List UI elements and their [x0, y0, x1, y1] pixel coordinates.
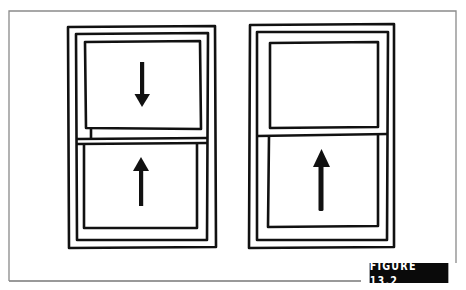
arrow-down-icon [135, 62, 151, 107]
meeting-rail [257, 134, 388, 136]
meeting-rail [77, 138, 207, 144]
figure-canvas [0, 0, 466, 290]
arrow-up-icon [133, 157, 149, 206]
arrow-up-icon [313, 149, 330, 211]
figure-label: FIGURE 13.2 [370, 263, 449, 283]
right-window [249, 24, 394, 248]
upper-sash [270, 42, 378, 128]
left-window [68, 26, 216, 248]
